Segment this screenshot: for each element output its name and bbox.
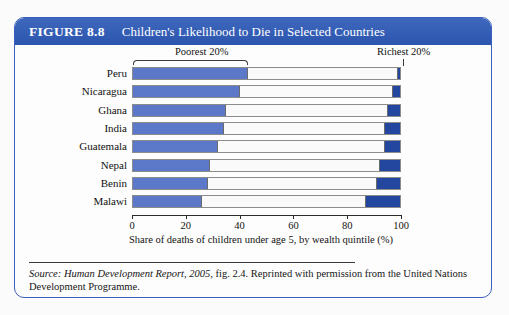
bar-segment-middle bbox=[208, 178, 376, 189]
y-axis-label: India bbox=[104, 122, 127, 135]
figure-number: FIGURE 8.8 bbox=[29, 24, 105, 40]
bar-segment-middle bbox=[226, 105, 386, 116]
y-axis-labels: PeruNicaraguaGhanaIndiaGuatemalaNepalBen… bbox=[15, 67, 127, 215]
bar-segment-richest bbox=[387, 105, 400, 116]
bars-container bbox=[132, 67, 401, 215]
bar-segment-middle bbox=[248, 68, 398, 79]
bar-row bbox=[132, 85, 401, 98]
figure-title: Children's Likelihood to Die in Selected… bbox=[122, 24, 385, 40]
bar-segment-richest bbox=[392, 86, 400, 97]
bar-segment-middle bbox=[218, 141, 384, 152]
bar-row bbox=[132, 122, 401, 135]
bar-segment-richest bbox=[397, 68, 400, 79]
x-axis-tick-label: 60 bbox=[288, 220, 299, 231]
bar-segment-poorest bbox=[133, 86, 240, 97]
bar-segment-middle bbox=[210, 160, 378, 171]
bar-segment-poorest bbox=[133, 123, 224, 134]
bar-segment-richest bbox=[384, 141, 400, 152]
x-axis-tick-label: 100 bbox=[393, 220, 409, 231]
x-axis-line bbox=[132, 215, 402, 216]
source-title: Human Development Report, 2005, bbox=[64, 268, 213, 279]
bar-segment-poorest bbox=[133, 105, 226, 116]
figure-frame: FIGURE 8.8 Children's Likelihood to Die … bbox=[14, 17, 492, 298]
x-axis-tick-label: 40 bbox=[234, 220, 245, 231]
bar-row bbox=[132, 177, 401, 190]
bar-row bbox=[132, 140, 401, 153]
x-axis-tick-label: 0 bbox=[129, 220, 134, 231]
poorest-bracket bbox=[133, 60, 248, 65]
y-axis-label: Nicaragua bbox=[82, 85, 127, 98]
richest-annotation-label: Richest 20% bbox=[377, 46, 430, 57]
y-axis-label: Ghana bbox=[98, 104, 127, 117]
x-axis-tick bbox=[240, 215, 241, 219]
bar-segment-poorest bbox=[133, 178, 208, 189]
y-axis-label: Peru bbox=[107, 67, 127, 80]
y-axis-label: Nepal bbox=[101, 159, 127, 172]
bar-segment-middle bbox=[240, 86, 392, 97]
source-prefix: Source: bbox=[29, 268, 64, 279]
bar-segment-middle bbox=[202, 196, 365, 207]
poorest-annotation-label: Poorest 20% bbox=[175, 46, 228, 57]
figure-title-bar: FIGURE 8.8 Children's Likelihood to Die … bbox=[15, 18, 491, 45]
bar-segment-richest bbox=[379, 160, 400, 171]
y-axis-label: Guatemala bbox=[79, 140, 127, 153]
chart-plot-wrapper: Poorest 20% Richest 20% PeruNicaraguaGha… bbox=[15, 45, 491, 261]
bar-row bbox=[132, 104, 401, 117]
y-axis-label: Malawi bbox=[93, 195, 127, 208]
bar-segment-poorest bbox=[133, 196, 202, 207]
bar-segment-poorest bbox=[133, 68, 248, 79]
bar-row bbox=[132, 159, 401, 172]
x-axis-tick-label: 20 bbox=[181, 220, 192, 231]
richest-pointer bbox=[403, 59, 404, 66]
x-axis-tick-label: 80 bbox=[342, 220, 353, 231]
source-note: Source: Human Development Report, 2005, … bbox=[29, 267, 469, 293]
bar-segment-richest bbox=[365, 196, 400, 207]
bar-segment-poorest bbox=[133, 160, 210, 171]
x-axis-title: Share of deaths of children under age 5,… bbox=[126, 234, 396, 245]
bar-row bbox=[132, 67, 401, 80]
source-divider bbox=[29, 262, 355, 263]
bar-segment-poorest bbox=[133, 141, 218, 152]
bar-segment-richest bbox=[376, 178, 400, 189]
y-axis-label: Benin bbox=[101, 177, 127, 190]
x-axis-tick bbox=[401, 215, 402, 219]
x-axis-tick bbox=[186, 215, 187, 219]
bar-row bbox=[132, 195, 401, 208]
x-axis-tick bbox=[132, 215, 133, 219]
x-axis-tick bbox=[293, 215, 294, 219]
x-axis-tick bbox=[347, 215, 348, 219]
bar-segment-richest bbox=[384, 123, 400, 134]
bar-segment-middle bbox=[224, 123, 384, 134]
